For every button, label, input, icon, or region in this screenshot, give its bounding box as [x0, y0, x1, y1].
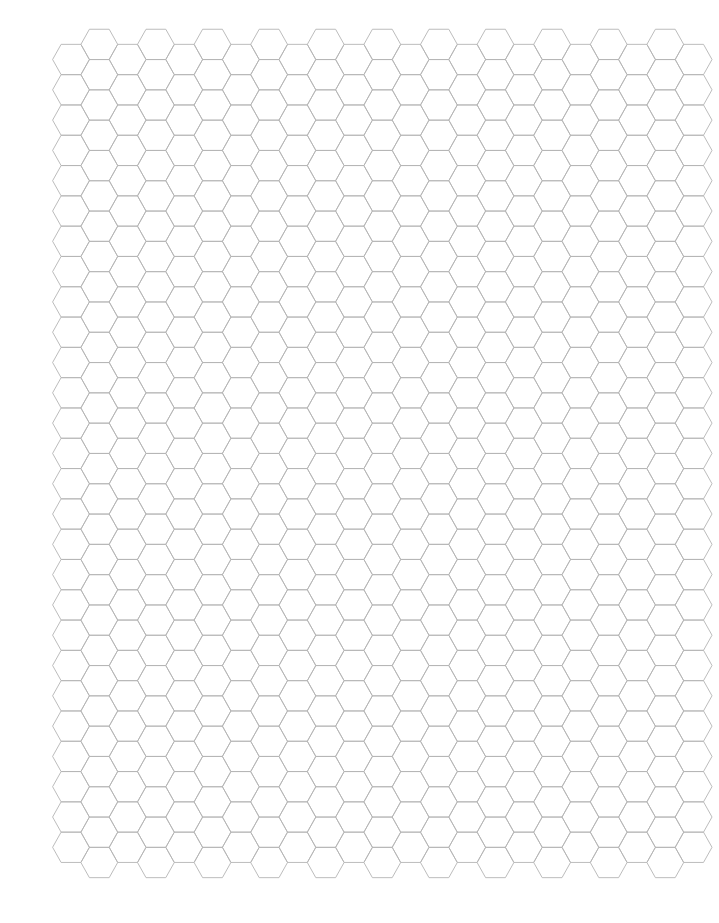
hexagon-grid	[0, 0, 719, 923]
hexagon-lines	[53, 29, 712, 877]
hex-paper-page	[0, 0, 719, 923]
